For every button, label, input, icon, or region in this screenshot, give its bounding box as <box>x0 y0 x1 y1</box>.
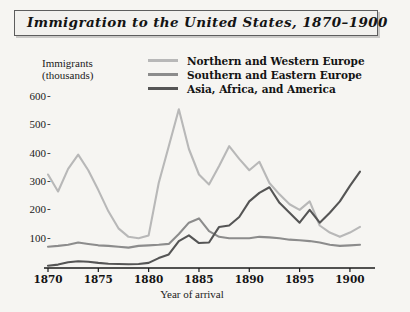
y-axis-tick-mark: - <box>47 117 51 129</box>
x-axis-label-text: Year of arrival <box>160 288 224 300</box>
chart-svg <box>0 0 410 312</box>
y-axis-tick-mark: - <box>47 146 51 158</box>
x-axis-label: Year of arrival <box>0 288 410 300</box>
chart-series-line <box>48 109 360 238</box>
y-axis-tick-mark: - <box>47 89 51 101</box>
x-axis-tick-label: 1875 <box>78 273 118 285</box>
y-axis-tick-label: 100 <box>16 232 46 244</box>
y-axis-tick-label: 200 <box>16 203 46 215</box>
x-axis-tick-label: 1870 <box>28 273 68 285</box>
x-axis-tick-label: 1885 <box>179 273 219 285</box>
y-axis-tick-label: 400 <box>16 147 46 159</box>
y-axis-tick-label: 300 <box>16 175 46 187</box>
x-axis-tick-label: 1880 <box>129 273 169 285</box>
y-axis-tick-mark: - <box>47 174 51 186</box>
y-axis-tick-mark: - <box>47 231 51 243</box>
y-axis-tick-label: 600 <box>16 90 46 102</box>
y-axis-tick-label: 500 <box>16 118 46 130</box>
x-axis-tick-label: 1895 <box>280 273 320 285</box>
plot-area: 600-500-400-300-200-100-1870187518801885… <box>0 0 410 312</box>
y-axis-tick-mark: - <box>47 202 51 214</box>
x-axis-tick-label: 1900 <box>330 273 370 285</box>
x-axis-tick-label: 1890 <box>229 273 269 285</box>
chart-series-line <box>48 172 360 266</box>
chart-page: Immigration to the United States, 1870–1… <box>0 0 410 312</box>
